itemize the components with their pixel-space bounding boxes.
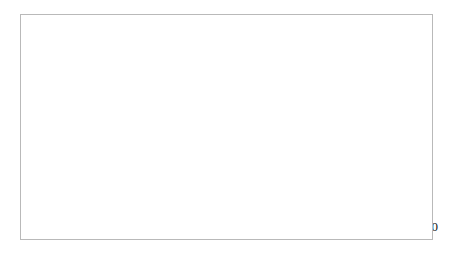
chart-outer-frame: [20, 14, 433, 240]
chart-container: 0%5%10%15%20%25%30%35%1971198019902000Ca…: [0, 0, 453, 254]
